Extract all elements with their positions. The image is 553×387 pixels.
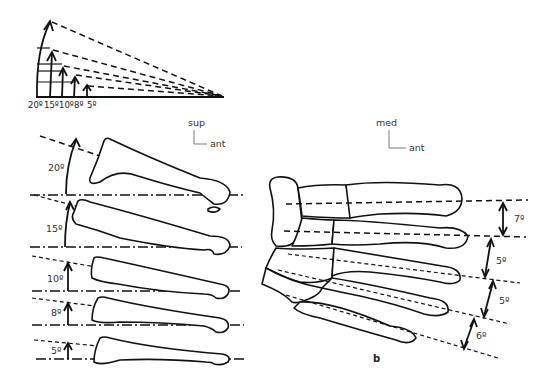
- orientation-med-label: med: [376, 117, 397, 128]
- metatarsal-2: [332, 220, 468, 248]
- angle-label-15: 15º: [46, 223, 63, 234]
- bone-outline-5: [94, 337, 229, 365]
- angle-label-8: 8º: [51, 307, 62, 318]
- bone-sesamoid-20: [208, 207, 220, 212]
- gap-arrow-6: [464, 320, 474, 348]
- bone-15: 15º: [30, 195, 242, 254]
- bone-5: 5º: [34, 337, 244, 365]
- fan-ray-15: [53, 50, 222, 96]
- metatarsal-1: [346, 183, 462, 219]
- orientation-lateral: sup ant: [188, 117, 226, 149]
- orientation-dorsal: med ant: [376, 117, 425, 153]
- orientation-axes: [389, 130, 406, 148]
- gap-label-6: 6º: [476, 330, 487, 341]
- orientation-sup-label: sup: [188, 117, 205, 128]
- gap-label-5a: 5º: [496, 255, 507, 266]
- lateral-view: 20º 15º 10º 8º: [30, 136, 246, 365]
- bone-outline-10: [91, 257, 229, 299]
- metatarsal-5: [294, 302, 416, 343]
- fan-label-15: 15º: [44, 100, 59, 110]
- metatarsal-angle-figure: 20º 15º 10º 8º 5º sup ant med ant 20º: [0, 0, 553, 387]
- fan-arrow-8: [74, 78, 75, 97]
- fan-label-20: 20º: [28, 100, 43, 110]
- angle-label-5: 5º: [51, 345, 62, 356]
- fan-arrow-15: [50, 53, 52, 97]
- panel-label-b: b: [373, 353, 380, 364]
- angle-label-20: 20º: [48, 162, 65, 173]
- fan-arrow-10: [62, 69, 63, 97]
- fan-diagram: 20º 15º 10º 8º 5º: [28, 21, 224, 110]
- orientation-ant-label: ant: [210, 138, 226, 149]
- fan-label-10: 10º: [59, 100, 74, 110]
- gap-arrow-5b: [484, 282, 493, 316]
- orientation-axes: [194, 130, 207, 144]
- bone-10: 10º: [32, 256, 242, 299]
- angle-label-10: 10º: [47, 273, 64, 284]
- bone-outline-15: [72, 200, 230, 255]
- angle-arc-20: [66, 140, 76, 194]
- fan-ray-8: [76, 75, 222, 96]
- fan-ray-20: [52, 22, 222, 96]
- bone-8: 8º: [32, 297, 244, 333]
- bone-outline-8: [92, 297, 228, 333]
- gap-label-7: 7º: [514, 213, 525, 224]
- fan-label-8: 8º: [74, 100, 83, 110]
- metatarsal-3: [332, 248, 460, 284]
- tarsal-block-1: [298, 185, 350, 218]
- dorsal-view: 7º 5º 5º 6º b: [262, 177, 528, 364]
- gap-label-5b: 5º: [499, 295, 510, 306]
- orientation-ant-label: ant: [409, 142, 425, 153]
- fan-label-5: 5º: [87, 100, 96, 110]
